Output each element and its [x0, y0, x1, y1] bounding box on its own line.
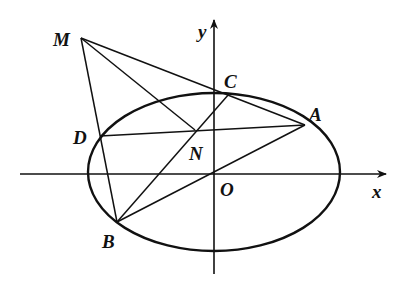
label-B: B — [101, 231, 115, 252]
geometry-diagram: M y C A D N O x B — [0, 0, 409, 296]
label-D: D — [72, 127, 87, 148]
label-x: x — [371, 181, 382, 202]
label-N: N — [188, 143, 204, 164]
label-C: C — [224, 71, 237, 92]
segment-DA — [100, 125, 305, 136]
label-M: M — [52, 29, 71, 50]
segment-MN — [81, 38, 195, 130]
label-O: O — [220, 179, 234, 200]
label-y: y — [196, 21, 207, 42]
segment-MA — [81, 38, 305, 125]
label-A: A — [308, 104, 322, 125]
